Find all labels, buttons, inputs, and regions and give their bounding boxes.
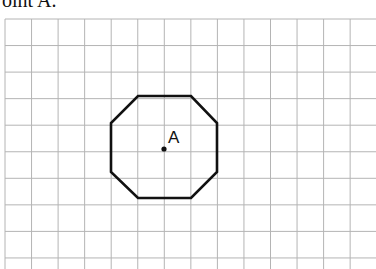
point-a-label: A	[168, 128, 180, 147]
grid-figure: A	[0, 0, 376, 269]
square-grid	[5, 19, 376, 269]
point-a-dot	[161, 146, 166, 151]
